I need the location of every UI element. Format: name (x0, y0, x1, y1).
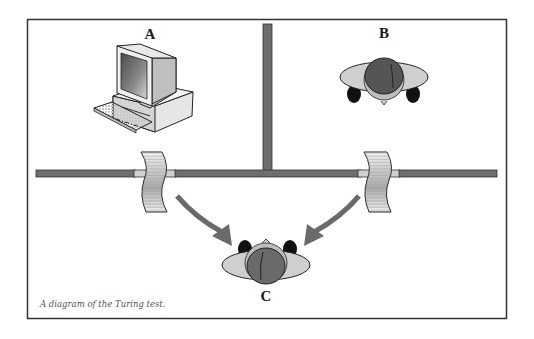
vertical-wall (263, 24, 272, 174)
horizontal-wall-middle (175, 170, 361, 177)
horizontal-wall-left (36, 170, 136, 177)
paper-slip-right-icon (364, 152, 392, 212)
turing-test-diagram: A B (0, 0, 534, 339)
label-b: B (379, 25, 389, 41)
label-c: C (261, 288, 272, 304)
caption: A diagram of the Turing test. (39, 299, 165, 309)
horizontal-wall-right (399, 170, 497, 177)
paper-slip-left-icon (141, 152, 167, 212)
label-a: A (145, 26, 156, 42)
